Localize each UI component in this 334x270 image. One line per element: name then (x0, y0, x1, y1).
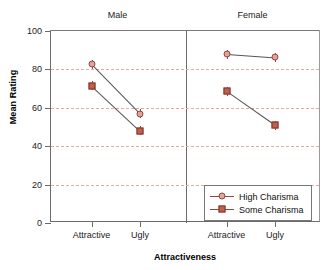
panel-divider (186, 31, 187, 223)
data-point-marker (137, 127, 144, 134)
series-line-segment (226, 91, 275, 126)
x-axis-tick (140, 221, 141, 227)
legend-item: High Charisma (210, 190, 304, 203)
y-axis-title: Mean Rating (8, 52, 18, 142)
gridline (51, 146, 319, 147)
data-point-marker (272, 122, 279, 129)
data-point-marker (223, 51, 230, 58)
y-axis-tick-label: 20 (32, 180, 42, 190)
y-axis-tick-label: 100 (27, 26, 42, 36)
gridline (51, 108, 319, 109)
y-axis-tick (45, 185, 51, 186)
x-axis-tick (227, 221, 228, 227)
x-axis-tick-label: Attractive (73, 230, 111, 240)
legend-label: High Charisma (239, 192, 299, 202)
x-axis-tick (92, 221, 93, 227)
gridline (51, 69, 319, 70)
legend-label: Some Charisma (239, 205, 304, 215)
x-axis-tick (275, 221, 276, 227)
x-axis-tick-label: Ugly (266, 230, 284, 240)
x-axis-tick-label: Ugly (131, 230, 149, 240)
y-axis-tick-label: 60 (32, 103, 42, 113)
legend-marker-circle-icon (210, 191, 234, 202)
y-axis-tick (45, 31, 51, 32)
x-axis-tick-label: Attractive (208, 230, 246, 240)
series-line-segment (226, 54, 275, 58)
y-axis-tick (45, 223, 51, 224)
y-axis-tick (45, 69, 51, 70)
legend-item: Some Charisma (210, 203, 304, 216)
legend-marker-square-icon (210, 204, 234, 215)
panel-header-male: Male (50, 10, 185, 20)
y-axis-tick (45, 108, 51, 109)
data-point-marker (88, 82, 95, 89)
y-axis-tick-label: 40 (32, 141, 42, 151)
panel-header-female: Female (185, 10, 320, 20)
x-axis-title: Attractiveness (50, 252, 320, 262)
data-point-marker (137, 110, 144, 117)
data-point-marker (223, 88, 230, 95)
data-point-marker (88, 61, 95, 68)
chart-container: Mean Rating Male Female 020406080100Attr… (0, 0, 334, 270)
chart-legend: High CharismaSome Charisma (204, 185, 312, 221)
y-axis-tick-label: 80 (32, 64, 42, 74)
data-point-marker (272, 54, 279, 61)
y-axis-tick (45, 146, 51, 147)
y-axis-tick-label: 0 (37, 218, 42, 228)
